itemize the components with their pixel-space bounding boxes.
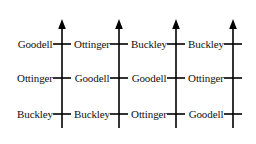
- arrow-up-icon-4: [229, 19, 237, 29]
- candidate-label-r3c2: Buckley: [74, 109, 110, 120]
- candidate-label-r1c2: Ottinger: [74, 39, 110, 50]
- candidate-label-r2c4: Ottinger: [188, 73, 224, 84]
- candidate-label-r1c4: Buckley: [188, 39, 224, 50]
- preference-ranking-figure: Goodell Ottinger Buckley Buckley Ottinge…: [0, 0, 256, 144]
- arrow-up-icon-1: [58, 19, 66, 29]
- candidate-label-r2c2: Goodell: [75, 73, 110, 84]
- candidate-label-r3c1: Buckley: [17, 109, 53, 120]
- axis-group-4: [224, 19, 242, 128]
- axis-group-1: [53, 19, 71, 128]
- arrow-up-icon-2: [115, 19, 123, 29]
- candidate-label-r2c1: Ottinger: [17, 73, 53, 84]
- candidate-label-r3c4: Goodell: [189, 109, 224, 120]
- candidate-label-r1c3: Buckley: [131, 39, 167, 50]
- candidate-label-r2c3: Goodell: [132, 73, 167, 84]
- axis-group-3: [167, 19, 185, 128]
- candidate-label-r3c3: Ottinger: [131, 109, 167, 120]
- candidate-label-r1c1: Goodell: [18, 39, 53, 50]
- arrow-up-icon-3: [172, 19, 180, 29]
- axis-group-2: [110, 19, 128, 128]
